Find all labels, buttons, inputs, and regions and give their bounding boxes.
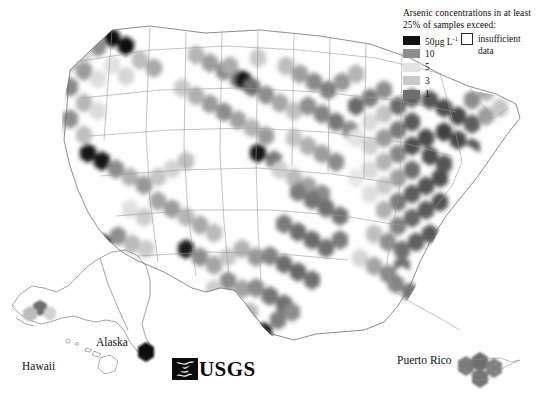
label-puerto-rico: Puerto Rico <box>397 354 452 366</box>
legend-label-10: 10 <box>425 49 434 59</box>
legend-swatch-insufficient <box>461 33 473 45</box>
alaska-interior-line <box>100 258 128 330</box>
usgs-logo: USGS <box>172 358 255 380</box>
legend-row-1: 1 <box>403 87 553 101</box>
legend-title: Arsenic concentrations in at least 25% o… <box>403 7 553 31</box>
label-hawaii: Hawaii <box>22 360 55 372</box>
legend-swatch-3 <box>403 76 420 85</box>
legend-label-3: 3 <box>425 76 430 86</box>
hexbin-group-florida <box>388 274 474 338</box>
hexbin-group-great-basin <box>80 143 222 259</box>
puerto-rico-inset <box>458 352 520 388</box>
legend-label-50-exponent: -1 <box>453 35 459 42</box>
legend-swatch-10 <box>403 49 420 58</box>
usgs-wave-mark <box>172 358 198 380</box>
hawaii-island-big-island <box>98 355 118 374</box>
alaska-inset <box>12 250 152 356</box>
hawaii-island-maui <box>92 351 101 357</box>
legend-label-1: 1 <box>425 89 430 99</box>
legend-swatch-5 <box>403 63 420 72</box>
legend-row-insufficient: insufficient data <box>461 33 521 57</box>
usgs-wordmark: USGS <box>199 359 255 380</box>
legend-label-50-text: 50µg L <box>425 37 453 47</box>
legend-swatch-50 <box>403 36 420 45</box>
legend-label-insufficient: insufficient data <box>478 33 521 57</box>
map-legend: Arsenic concentrations in at least 25% o… <box>403 7 553 103</box>
legend-label-5: 5 <box>425 62 430 72</box>
alaska-outline <box>12 250 152 356</box>
legend-row-3: 3 <box>403 74 553 88</box>
alaska-hexbins <box>23 300 154 362</box>
legend-row-5: 5 <box>403 60 553 74</box>
hawaii-island-oahu <box>75 342 78 345</box>
hawaii-island-molokai <box>85 348 92 352</box>
legend-label-50: 50µg L-1 <box>425 34 458 47</box>
legend-body: 50µg L-1 10 5 3 1 insufficient data <box>403 33 553 103</box>
hawaii-island-kauai <box>66 339 70 343</box>
legend-swatch-1 <box>403 90 420 99</box>
arsenic-concentration-map: Arsenic concentrations in at least 25% o… <box>0 0 553 397</box>
label-alaska: Alaska <box>96 336 128 348</box>
